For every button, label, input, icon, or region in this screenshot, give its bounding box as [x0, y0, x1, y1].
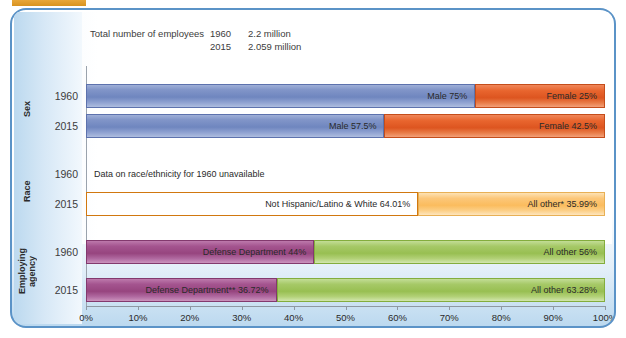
bar-segment[interactable]: Not Hispanic/Latino & White 64.01% [86, 192, 418, 216]
top-gold-tab [12, 0, 86, 6]
total-employees-year-0: 1960 [210, 27, 248, 40]
year-label: 1960 [34, 162, 78, 186]
bar-row: 1960Defense Department 44%All other 56% [86, 240, 605, 264]
x-axis-tick-label: 80% [492, 312, 511, 323]
x-axis-tick [242, 306, 243, 310]
plot-area: 1960Male 75%Female 25%2015Male 57.5%Fema… [86, 66, 601, 314]
x-axis-tick-label: 100% [593, 312, 616, 323]
bar-segment[interactable]: Defense Department** 36.72% [86, 278, 277, 302]
bar-row: 2015Not Hispanic/Latino & White 64.01%Al… [86, 192, 605, 216]
year-label: 2015 [34, 114, 78, 138]
bar-segment-label: Female 25% [546, 91, 604, 101]
x-axis-tick-label: 0% [79, 312, 93, 323]
bar-segment[interactable]: Female 42.5% [384, 114, 605, 138]
x-axis-tick [605, 306, 606, 310]
bar-segment[interactable]: Male 75% [86, 84, 475, 108]
x-axis-tick [553, 306, 554, 310]
x-axis-tick-label: 50% [336, 312, 355, 323]
x-axis-tick [346, 306, 347, 310]
x-axis-tick-label: 60% [388, 312, 407, 323]
bar-row: 2015Male 57.5%Female 42.5% [86, 114, 605, 138]
x-axis-tick [397, 306, 398, 310]
bar-segment-label: Male 57.5% [329, 121, 384, 131]
bar-segment-label: Male 75% [427, 91, 474, 101]
total-employees-label-spacer [90, 40, 210, 53]
total-employees-year-1: 2015 [210, 40, 248, 53]
x-axis-tick-label: 70% [440, 312, 459, 323]
bar-segment[interactable]: All other* 35.99% [418, 192, 605, 216]
bar-row: 2015Defense Department** 36.72%All other… [86, 278, 605, 302]
bar-segment[interactable]: All other 63.28% [277, 278, 605, 302]
chart-panel: Total number of employees 1960 2.2 milli… [10, 8, 616, 328]
x-axis-tick [449, 306, 450, 310]
bar-segment-label: All other 63.28% [531, 285, 604, 295]
bar-segment[interactable]: Male 57.5% [86, 114, 384, 138]
year-label: 1960 [34, 84, 78, 108]
bar-segment-label: All other* 35.99% [527, 199, 604, 209]
total-employees-label: Total number of employees [90, 27, 210, 40]
total-employees-value-1: 2.059 million [248, 40, 301, 53]
x-axis-tick [501, 306, 502, 310]
bar-segment[interactable]: Female 25% [475, 84, 605, 108]
x-axis-tick-label: 90% [544, 312, 563, 323]
bar-segment-label: All other 56% [543, 247, 604, 257]
x-axis-tick-label: 20% [180, 312, 199, 323]
x-axis-tick-label: 10% [128, 312, 147, 323]
unavailable-note-row: 1960Data on race/ethnicity for 1960 unav… [86, 162, 605, 186]
bar-segment-label: Defense Department 44% [203, 247, 314, 257]
x-axis-tick-label: 40% [284, 312, 303, 323]
bar-segment[interactable]: All other 56% [314, 240, 605, 264]
bar-segment-label: Not Hispanic/Latino & White 64.01% [265, 199, 417, 209]
total-employees-value-0: 2.2 million [248, 27, 291, 40]
x-axis-tick [86, 306, 87, 310]
bar-segment-label: Defense Department** 36.72% [145, 285, 275, 295]
bar-segment[interactable]: Defense Department 44% [86, 240, 314, 264]
total-employees-note: Total number of employees 1960 2.2 milli… [90, 27, 301, 53]
x-axis-tick [190, 306, 191, 310]
unavailable-note-text: Data on race/ethnicity for 1960 unavaila… [86, 169, 265, 179]
year-label: 1960 [34, 240, 78, 264]
bar-row: 1960Male 75%Female 25% [86, 84, 605, 108]
bar-segment-label: Female 42.5% [539, 121, 604, 131]
year-label: 2015 [34, 278, 78, 302]
x-axis-tick [138, 306, 139, 310]
x-axis-tick-label: 30% [232, 312, 251, 323]
year-label: 2015 [34, 192, 78, 216]
x-axis-tick [294, 306, 295, 310]
